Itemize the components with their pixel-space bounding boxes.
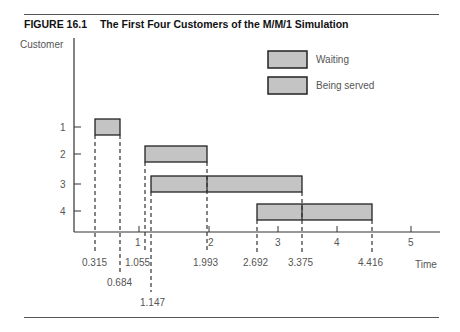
event-4416: 4.416 [358, 257, 383, 268]
legend: Waiting Being served [268, 51, 374, 94]
y-tick-4: 4 [60, 206, 66, 217]
bar-customer-2 [145, 146, 207, 162]
event-1055: 1.055 [125, 257, 150, 268]
legend-label-waiting: Waiting [316, 54, 349, 65]
y-tick-1: 1 [60, 122, 66, 133]
y-axis-label: Customer [20, 39, 64, 50]
y-tick-2: 2 [60, 149, 66, 160]
event-0315: 0.315 [82, 257, 107, 268]
x-axis-label: Time [415, 259, 437, 270]
bars [95, 119, 372, 220]
x-tick-4: 4 [334, 237, 340, 248]
event-3375: 3.375 [288, 257, 313, 268]
y-tick-3: 3 [60, 179, 66, 190]
legend-swatch-waiting [268, 51, 307, 68]
bar-customer-1 [95, 119, 120, 135]
legend-swatch-served [268, 77, 307, 94]
chart-canvas: Customer Time 1 2 3 4 1 2 3 4 5 Waiting … [0, 0, 460, 332]
x-tick-2: 2 [208, 237, 214, 248]
legend-label-served: Being served [316, 80, 374, 91]
event-0684: 0.684 [107, 277, 132, 288]
bar-customer-4 [257, 204, 372, 220]
bar-customer-3 [151, 176, 302, 192]
event-1147: 1.147 [140, 297, 165, 308]
event-1993: 1.993 [193, 257, 218, 268]
event-labels: 0.315 0.684 1.055 1.147 1.993 2.692 3.37… [82, 257, 383, 308]
x-tick-5: 5 [408, 237, 414, 248]
x-tick-1: 1 [135, 237, 141, 248]
y-ticks: 1 2 3 4 [60, 122, 81, 217]
bottom-rule [24, 317, 439, 318]
x-tick-3: 3 [275, 237, 281, 248]
event-2692: 2.692 [243, 257, 268, 268]
